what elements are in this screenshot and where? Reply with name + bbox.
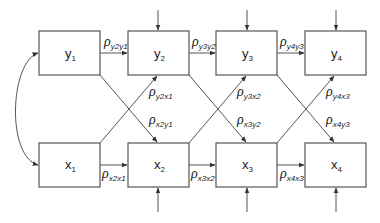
coef-y3x2: ρy3x2 — [236, 84, 261, 101]
coef-x4x3: ρx4x3 — [279, 166, 304, 183]
coef-x2y1: ρx2y1 — [148, 112, 173, 129]
coef-y3y2: ρy3y2 — [191, 34, 216, 51]
coef-x3x2: ρx3x2 — [190, 166, 215, 183]
coef-y4y3: ρy4y3 — [279, 34, 304, 51]
path-diagram: y1 y2 y3 y4 x1 x2 x3 x4 ρy2y — [0, 0, 380, 223]
coef-x3y2: ρx3y2 — [236, 112, 261, 129]
coef-x4y3: ρx4y3 — [325, 112, 350, 129]
correlation-arrow-y1-x1 — [15, 53, 38, 165]
coef-x2x1: ρx2x1 — [101, 166, 126, 183]
coef-y4x3: ρy4x3 — [325, 84, 350, 101]
coef-y2y1: ρy2y1 — [103, 34, 128, 51]
diagram-canvas: y1 y2 y3 y4 x1 x2 x3 x4 ρy2y — [0, 0, 380, 223]
coef-y2x1: ρy2x1 — [148, 84, 173, 101]
